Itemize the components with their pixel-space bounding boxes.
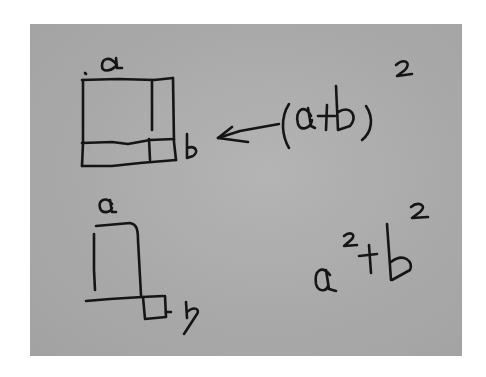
bottom-expression-glyphs bbox=[316, 204, 428, 291]
bottom-label-a bbox=[100, 200, 116, 212]
top-expression-glyphs bbox=[283, 61, 412, 148]
top-label-a bbox=[102, 58, 122, 71]
left-arrow-icon bbox=[218, 124, 279, 142]
top-square-diagram bbox=[82, 58, 196, 166]
top-label-b bbox=[187, 134, 196, 158]
handwriting-layer bbox=[0, 0, 486, 377]
bottom-squares-diagram bbox=[86, 200, 198, 334]
bottom-label-b bbox=[184, 302, 198, 334]
